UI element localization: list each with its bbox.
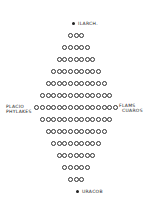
dot — [90, 93, 95, 98]
dot — [90, 117, 95, 122]
dot — [102, 81, 107, 86]
dot — [96, 117, 101, 122]
dot — [85, 93, 90, 98]
dot — [85, 141, 90, 146]
dot — [68, 81, 73, 86]
dot — [79, 69, 84, 74]
dot — [51, 69, 56, 74]
dot — [62, 117, 67, 122]
dot — [85, 57, 90, 62]
dot — [74, 33, 79, 38]
dot — [79, 177, 84, 182]
dot — [96, 93, 101, 98]
dot — [74, 177, 79, 182]
dot — [107, 117, 112, 122]
dot — [74, 57, 79, 62]
dot — [90, 81, 95, 86]
dot — [57, 57, 62, 62]
dot — [90, 129, 95, 134]
dot — [79, 105, 84, 110]
dot — [57, 141, 62, 146]
dot — [68, 57, 73, 62]
dot — [68, 165, 73, 170]
dot — [68, 105, 73, 110]
dot — [96, 81, 101, 86]
dot — [51, 129, 56, 134]
dot — [79, 93, 84, 98]
dot — [62, 153, 67, 158]
top-marker-icon — [72, 22, 75, 25]
dot — [102, 93, 107, 98]
dot — [107, 93, 112, 98]
dot — [102, 105, 107, 110]
dot — [62, 141, 67, 146]
dot — [90, 57, 95, 62]
dot — [79, 33, 84, 38]
dot — [51, 93, 56, 98]
dot — [74, 129, 79, 134]
dot — [90, 105, 95, 110]
dot — [113, 105, 118, 110]
dot — [68, 129, 73, 134]
dot — [46, 81, 51, 86]
dot — [79, 165, 84, 170]
dot — [51, 105, 56, 110]
dot — [51, 141, 56, 146]
dot — [57, 93, 62, 98]
dot — [57, 69, 62, 74]
dot — [57, 129, 62, 134]
dot — [74, 93, 79, 98]
dot — [74, 153, 79, 158]
dot — [62, 81, 67, 86]
dot — [62, 129, 67, 134]
dot — [57, 105, 62, 110]
dot — [96, 141, 101, 146]
dot — [62, 57, 67, 62]
dot — [46, 105, 51, 110]
dot — [68, 177, 73, 182]
dot — [79, 57, 84, 62]
dot — [62, 69, 67, 74]
dot — [79, 81, 84, 86]
dot — [107, 105, 112, 110]
right-label-line2: CUAROS — [122, 108, 143, 113]
dot — [96, 129, 101, 134]
dot — [79, 141, 84, 146]
dot — [96, 105, 101, 110]
dot — [85, 153, 90, 158]
top-label: ILARCH. — [78, 21, 98, 26]
dot — [74, 141, 79, 146]
bottom-label: URACOB — [82, 189, 103, 194]
dot — [68, 153, 73, 158]
dot — [85, 45, 90, 50]
dot — [62, 93, 67, 98]
dot — [102, 117, 107, 122]
dot — [79, 117, 84, 122]
dot — [79, 129, 84, 134]
dot — [74, 45, 79, 50]
dot — [46, 117, 51, 122]
dot — [68, 117, 73, 122]
dot — [40, 117, 45, 122]
dot — [40, 105, 45, 110]
dot — [79, 45, 84, 50]
dot — [62, 165, 67, 170]
dot — [68, 45, 73, 50]
dot — [68, 93, 73, 98]
dot — [57, 117, 62, 122]
dot — [85, 129, 90, 134]
dot — [90, 141, 95, 146]
dot — [85, 81, 90, 86]
left-label-line2: PHYLAKES — [6, 109, 32, 114]
dot — [51, 117, 56, 122]
dot — [68, 141, 73, 146]
dot — [90, 153, 95, 158]
dot — [74, 117, 79, 122]
dot — [96, 69, 101, 74]
dot — [85, 117, 90, 122]
dot — [85, 69, 90, 74]
dot — [57, 81, 62, 86]
dot — [51, 81, 56, 86]
dot — [62, 45, 67, 50]
dot — [62, 105, 67, 110]
